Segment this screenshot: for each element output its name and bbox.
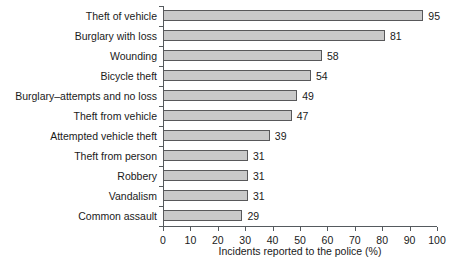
bar <box>163 10 423 21</box>
y-axis-tick <box>159 86 163 87</box>
bar-row: 81 <box>163 26 437 46</box>
bar <box>163 70 311 81</box>
category-label: Attempted vehicle theft <box>0 126 157 146</box>
bar-value-label: 31 <box>253 190 265 202</box>
y-axis-tick <box>159 166 163 167</box>
bar-row: 58 <box>163 46 437 66</box>
bar <box>163 190 248 201</box>
category-label: Robbery <box>0 166 157 186</box>
x-axis-tick <box>382 227 383 231</box>
category-label: Vandalism <box>0 186 157 206</box>
bar <box>163 90 297 101</box>
bar <box>163 150 248 161</box>
bar-value-label: 29 <box>247 210 259 222</box>
y-axis-tick <box>159 6 163 7</box>
y-axis-tick <box>159 146 163 147</box>
bar <box>163 170 248 181</box>
bar-value-label: 81 <box>390 30 402 42</box>
bar-row: 29 <box>163 206 437 226</box>
plot-area: 9581585449473931313129010203040506070809… <box>163 6 437 226</box>
category-label: Burglary–attempts and no loss <box>0 86 157 106</box>
bar-row: 39 <box>163 126 437 146</box>
y-axis-tick <box>159 46 163 47</box>
bar <box>163 110 292 121</box>
bar <box>163 50 322 61</box>
bar-value-label: 58 <box>327 50 339 62</box>
bar-value-label: 39 <box>275 130 287 142</box>
x-axis-tick <box>327 227 328 231</box>
x-axis-tick <box>163 227 164 231</box>
bar-row: 95 <box>163 6 437 26</box>
x-axis-tick <box>218 227 219 231</box>
category-label: Theft of vehicle <box>0 6 157 26</box>
bar-value-label: 95 <box>428 10 440 22</box>
x-axis-tick <box>300 227 301 231</box>
bar-value-label: 31 <box>253 150 265 162</box>
y-axis-tick <box>159 106 163 107</box>
x-axis-title: Incidents reported to the police (%) <box>163 245 437 257</box>
x-axis-tick <box>273 227 274 231</box>
bar-row: 54 <box>163 66 437 86</box>
x-axis-tick <box>190 227 191 231</box>
bar-row: 49 <box>163 86 437 106</box>
bar-value-label: 54 <box>316 70 328 82</box>
x-axis-tick <box>437 227 438 231</box>
category-label: Common assault <box>0 206 157 226</box>
y-axis-tick <box>159 66 163 67</box>
bar-row: 31 <box>163 146 437 166</box>
bar-row: 31 <box>163 186 437 206</box>
bar-row: 47 <box>163 106 437 126</box>
category-label: Theft from vehicle <box>0 106 157 126</box>
x-axis-tick <box>355 227 356 231</box>
bar-value-label: 31 <box>253 170 265 182</box>
category-label: Burglary with loss <box>0 26 157 46</box>
bar <box>163 130 270 141</box>
category-label: Wounding <box>0 46 157 66</box>
y-axis-tick <box>159 26 163 27</box>
x-axis-tick <box>410 227 411 231</box>
y-axis-tick <box>159 126 163 127</box>
bar <box>163 210 242 221</box>
category-axis-labels: Theft of vehicleBurglary with lossWoundi… <box>0 6 157 226</box>
x-axis-tick <box>245 227 246 231</box>
bar-value-label: 47 <box>297 110 309 122</box>
category-label: Bicycle theft <box>0 66 157 86</box>
category-label: Theft from person <box>0 146 157 166</box>
bar-row: 31 <box>163 166 437 186</box>
bar-chart: Theft of vehicleBurglary with lossWoundi… <box>0 0 451 265</box>
y-axis-tick <box>159 206 163 207</box>
bar-value-label: 49 <box>302 90 314 102</box>
y-axis-tick <box>159 186 163 187</box>
bar <box>163 30 385 41</box>
